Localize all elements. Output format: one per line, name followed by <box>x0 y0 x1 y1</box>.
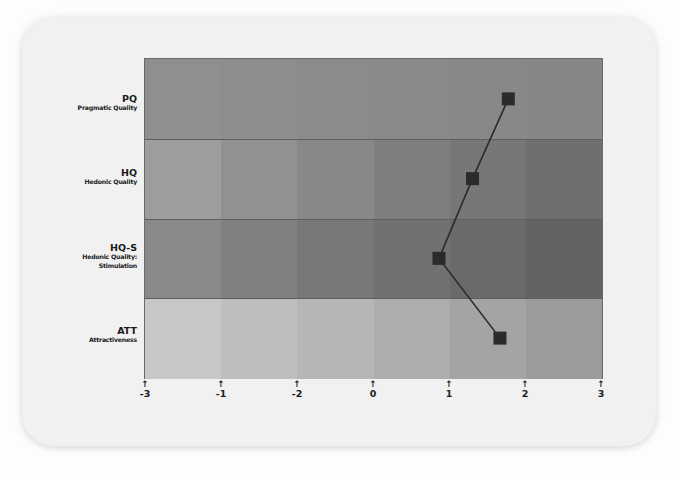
band-cell <box>297 140 373 220</box>
row-abbr: HQ <box>27 167 137 178</box>
band-cell <box>374 299 450 379</box>
row-description: Attractiveness <box>27 336 137 345</box>
band-row-hq-s <box>145 219 602 300</box>
x-tick: ↑ 2 <box>515 380 535 400</box>
x-tick-label: -1 <box>211 388 231 400</box>
x-tick-label: 2 <box>515 388 535 400</box>
tick-arrow-icon: ↑ <box>591 380 611 388</box>
band-cell <box>221 140 297 220</box>
band-cell <box>145 140 221 220</box>
row-label-hq: HQ Hedonic Quality <box>27 167 137 187</box>
band-cell <box>374 59 450 139</box>
x-tick: ↑ 0 <box>363 380 383 400</box>
row-label-hq-s: HQ-S Hedonic Quality: Stimulation <box>27 242 137 270</box>
plot-area <box>145 59 602 378</box>
tick-arrow-icon: ↑ <box>439 380 459 388</box>
row-description-line2: Stimulation <box>27 262 137 271</box>
band-cell <box>145 299 221 379</box>
band-cell <box>297 299 373 379</box>
x-tick: ↑ -1 <box>211 380 231 400</box>
band-cell <box>450 140 526 220</box>
band-cell <box>526 140 602 220</box>
band-cell <box>450 299 526 379</box>
band-row-pq <box>145 59 602 139</box>
band-cell <box>221 299 297 379</box>
band-cell <box>526 220 602 300</box>
x-tick: ↑ 3 <box>591 380 611 400</box>
tick-arrow-icon: ↑ <box>515 380 535 388</box>
band-cell <box>450 220 526 300</box>
tick-arrow-icon: ↑ <box>135 380 155 388</box>
row-abbr: ATT <box>27 325 137 336</box>
x-tick-label: 1 <box>439 388 459 400</box>
band-cell <box>526 59 602 139</box>
band-cell <box>145 59 221 139</box>
band-cell <box>526 299 602 379</box>
x-tick: ↑ -3 <box>135 380 155 400</box>
row-abbr: HQ-S <box>27 242 137 253</box>
tick-arrow-icon: ↑ <box>363 380 383 388</box>
tick-arrow-icon: ↑ <box>211 380 231 388</box>
x-tick: ↑ 1 <box>439 380 459 400</box>
x-tick-label: -3 <box>135 388 155 400</box>
x-tick-label: 3 <box>591 388 611 400</box>
band-cell <box>374 220 450 300</box>
band-cell <box>221 220 297 300</box>
band-cell <box>297 220 373 300</box>
band-row-hq <box>145 139 602 220</box>
band-cell <box>145 220 221 300</box>
band-cell <box>221 59 297 139</box>
band-cell <box>297 59 373 139</box>
x-tick-label: -2 <box>287 388 307 400</box>
row-description: Hedonic Quality <box>27 178 137 187</box>
row-description: Pragmatic Quality <box>27 104 137 113</box>
tick-arrow-icon: ↑ <box>287 380 307 388</box>
row-label-att: ATT Attractiveness <box>27 325 137 345</box>
band-row-att <box>145 298 602 379</box>
row-label-pq: PQ Pragmatic Quality <box>27 93 137 113</box>
row-description: Hedonic Quality: <box>27 253 137 262</box>
row-abbr: PQ <box>27 93 137 104</box>
x-tick-label: 0 <box>363 388 383 400</box>
band-cell <box>450 59 526 139</box>
band-cell <box>374 140 450 220</box>
x-tick: ↑ -2 <box>287 380 307 400</box>
